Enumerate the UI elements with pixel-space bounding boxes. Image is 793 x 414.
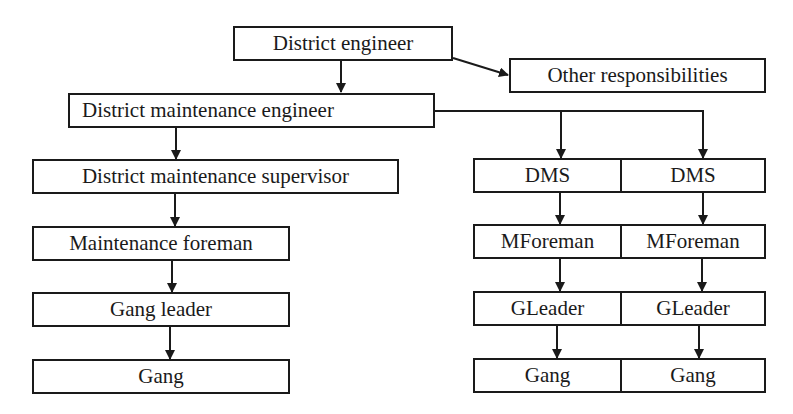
node-gang-1: Gang bbox=[473, 358, 621, 393]
node-district-engineer: District engineer bbox=[233, 26, 453, 61]
node-label: MForeman bbox=[501, 231, 594, 252]
node-label: DMS bbox=[670, 165, 716, 186]
node-dms-2: DMS bbox=[621, 158, 766, 193]
node-label: District engineer bbox=[273, 33, 414, 54]
node-label: Gang bbox=[138, 366, 184, 387]
node-label: District maintenance engineer bbox=[82, 100, 334, 121]
node-gang-2: Gang bbox=[621, 358, 766, 393]
node-district-maintenance-supervisor: District maintenance supervisor bbox=[32, 159, 399, 194]
node-dms-1: DMS bbox=[473, 158, 621, 193]
node-label: DMS bbox=[525, 165, 571, 186]
node-gleader-2: GLeader bbox=[621, 291, 766, 326]
node-other-responsibilities: Other responsibilities bbox=[509, 58, 766, 93]
node-label: Gang bbox=[670, 365, 716, 386]
node-label: Gang leader bbox=[110, 299, 212, 320]
node-gang-leader: Gang leader bbox=[32, 292, 290, 327]
node-mforeman-1: MForeman bbox=[473, 224, 621, 259]
node-mforeman-2: MForeman bbox=[621, 224, 766, 259]
node-maintenance-foreman: Maintenance foreman bbox=[32, 226, 290, 261]
node-label: GLeader bbox=[656, 298, 729, 319]
line-dme-to-dms-right bbox=[435, 111, 703, 158]
node-gang: Gang bbox=[32, 359, 290, 394]
arrow-de-to-other bbox=[453, 58, 508, 75]
node-label: Gang bbox=[525, 365, 571, 386]
node-label: District maintenance supervisor bbox=[82, 166, 349, 187]
node-label: Other responsibilities bbox=[547, 65, 727, 86]
node-label: Maintenance foreman bbox=[69, 233, 253, 254]
node-label: MForeman bbox=[646, 231, 739, 252]
node-district-maintenance-engineer: District maintenance engineer bbox=[68, 93, 435, 128]
node-gleader-1: GLeader bbox=[473, 291, 621, 326]
node-label: GLeader bbox=[511, 298, 584, 319]
